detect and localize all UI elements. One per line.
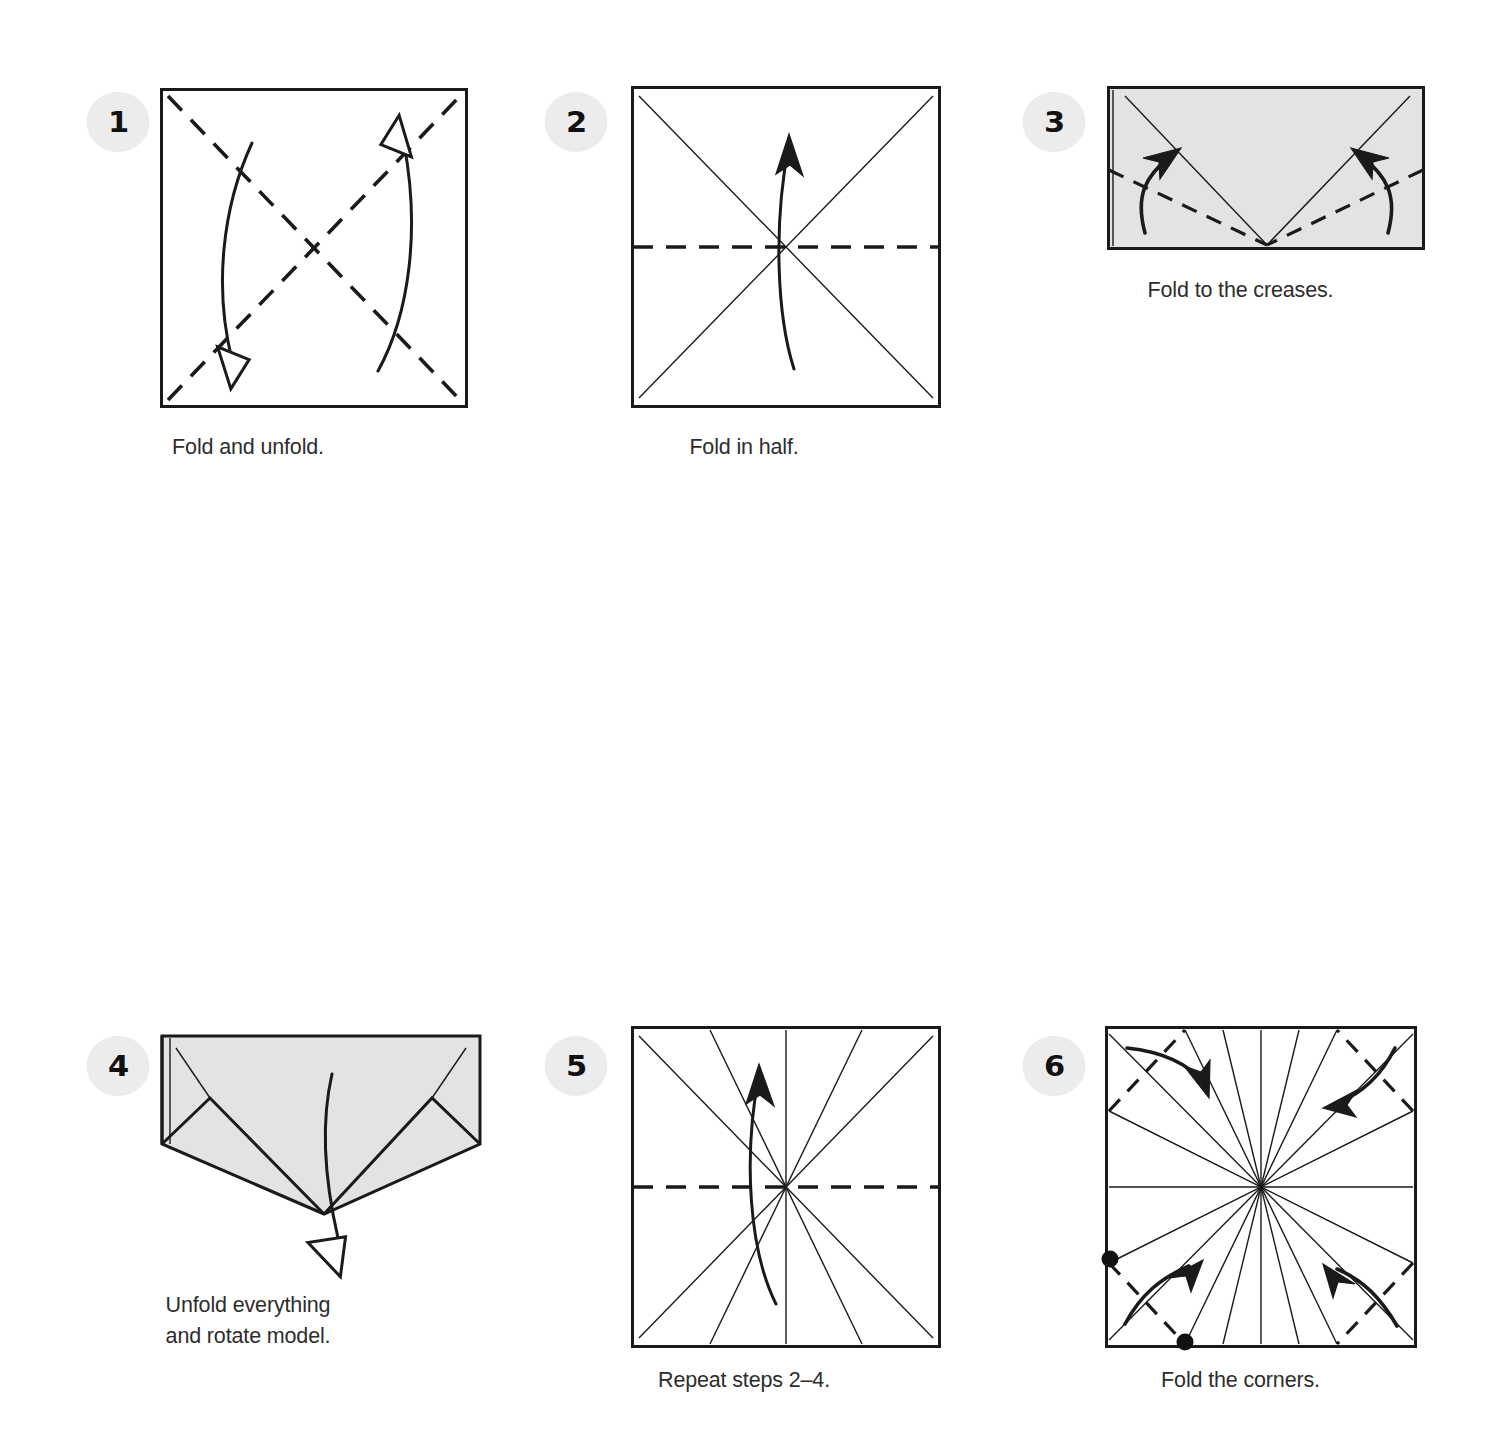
steps-grid: 1 Fold and unfold. 2 — [0, 0, 1489, 1430]
step-cell-7: 7 — [0, 940, 496, 1430]
step-number-badge-2: 2 — [545, 92, 608, 152]
step-cell-8: 8 — [496, 940, 992, 1430]
step-caption-2: Fold in half. — [496, 432, 992, 463]
step-number-badge-1: 1 — [87, 92, 150, 152]
step-number-badge-3: 3 — [1023, 92, 1086, 152]
step-cell-4: 4 Unfold everything and rotate model. — [0, 470, 496, 940]
step-cell-2: 2 Fold in half. — [496, 0, 992, 470]
step-cell-5: 5 Repeat steps 2–4. — [496, 470, 992, 940]
step-diagram-1 — [160, 88, 468, 408]
step-cell-3: 3 Fold to the creases. — [992, 0, 1489, 470]
step-diagram-3 — [1107, 86, 1425, 252]
step-diagram-2 — [631, 86, 941, 408]
step-caption-1: Fold and unfold. — [0, 432, 496, 463]
origami-instructions-page: 1 Fold and unfold. 2 — [0, 0, 1489, 1430]
step-cell-6: 6 — [992, 470, 1489, 940]
step-caption-3: Fold to the creases. — [992, 275, 1489, 306]
step-cell-1: 1 Fold and unfold. — [0, 0, 496, 470]
step-cell-9: 9 — [992, 940, 1489, 1430]
